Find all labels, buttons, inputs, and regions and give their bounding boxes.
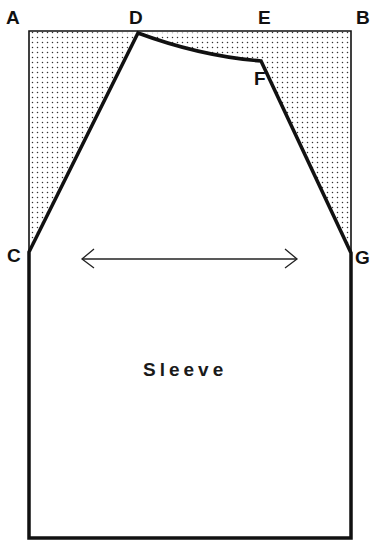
point-label-a: A	[6, 7, 20, 28]
point-label-d: D	[129, 7, 143, 28]
point-label-g: G	[355, 247, 370, 268]
sleeve-pattern-diagram: A D E B F C G Sleeve	[0, 0, 377, 553]
grainline-arrow	[82, 249, 297, 268]
point-label-f: F	[254, 68, 266, 89]
point-label-c: C	[7, 245, 21, 266]
shaded-region-right	[138, 31, 351, 253]
point-label-e: E	[258, 7, 271, 28]
point-label-b: B	[356, 7, 370, 28]
piece-title: Sleeve	[143, 359, 227, 380]
